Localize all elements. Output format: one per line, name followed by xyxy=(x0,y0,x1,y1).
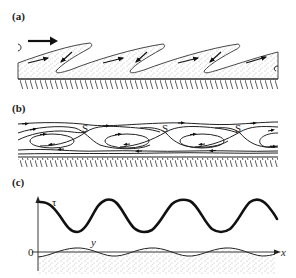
ground-hatching-b xyxy=(18,158,278,167)
panel-c-label: (c) xyxy=(12,176,25,189)
streamline-lower-2 xyxy=(18,153,278,154)
x-axis-arrow-icon xyxy=(274,250,281,255)
shear-stress-tau-curve xyxy=(40,200,277,233)
streamline-lower-1 xyxy=(18,149,278,151)
sand-ripple-bed xyxy=(18,43,278,79)
saddle-label-2: S xyxy=(162,122,168,134)
recirculation-eddy-4 xyxy=(260,133,278,148)
ground-hatching-a xyxy=(18,80,278,89)
panel-b-label: (b) xyxy=(12,102,26,115)
origin-label: 0 xyxy=(28,246,34,258)
panel-a: (a) xyxy=(12,10,278,89)
sand-ripple-flow-figure: (a) (b) xyxy=(0,0,296,278)
panel-b: (b) xyxy=(12,102,278,167)
saddle-label-3: S xyxy=(235,122,241,134)
edge-eddy-left xyxy=(18,44,21,51)
panel-a-label: (a) xyxy=(12,10,25,23)
y-label: y xyxy=(90,236,96,248)
x-axis-label: x xyxy=(280,246,286,258)
flow-direction-arrow-icon xyxy=(28,37,58,46)
tau-label: τ xyxy=(52,196,57,208)
saddle-label-1: S xyxy=(82,122,88,134)
panel-c: (c) τ y x 0 xyxy=(12,176,286,274)
recirculation-eddy-1 xyxy=(30,134,74,148)
